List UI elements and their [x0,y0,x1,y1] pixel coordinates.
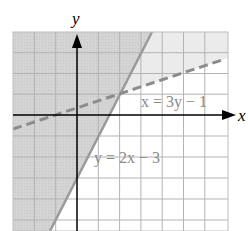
x-axis-arrow-icon [222,110,236,120]
graph: x y x = 3y − 1 y = 2x − 3 [0,0,248,231]
y-axis-label: y [70,9,80,28]
label-x-equals-3y-minus-1: x = 3y − 1 [141,93,207,111]
label-y-equals-2x-minus-3: y = 2x − 3 [94,149,160,167]
x-axis-label: x [237,106,246,125]
